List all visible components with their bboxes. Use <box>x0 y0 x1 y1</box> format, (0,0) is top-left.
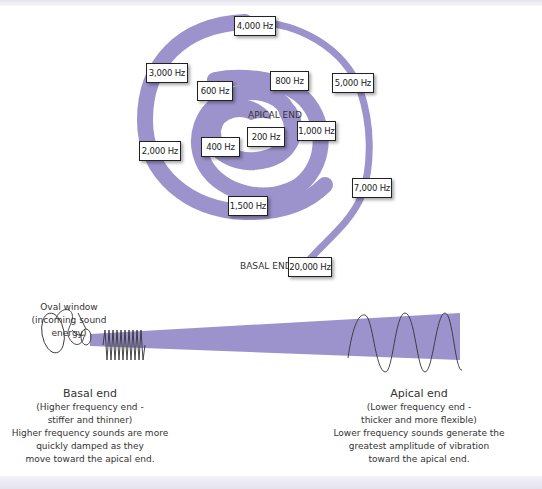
frequency-label: 800 Hz <box>270 71 309 91</box>
frequency-label: 3,000 Hz <box>146 63 188 83</box>
frequency-label: 1,000 Hz <box>297 121 336 141</box>
apical-end-title: Apical end <box>330 386 508 401</box>
frequency-label: 4,000 Hz <box>234 16 276 36</box>
basal-end-caption: Basal end (Higher frequency end - stiffe… <box>10 386 170 466</box>
apical-line: greatest amplitude of vibration <box>330 440 508 453</box>
apical-line: (Lower frequency end - <box>330 401 508 414</box>
basal-end-label: BASAL END <box>240 261 292 271</box>
bottom-border <box>0 476 542 489</box>
oval-window-caption: Oval window (incoming sound energy) <box>14 301 124 340</box>
basal-line: (Higher frequency end - <box>10 401 170 414</box>
basilar-membrane <box>90 313 460 360</box>
frequency-label: 200 Hz <box>247 127 285 147</box>
frequency-label: 5,000 Hz <box>332 73 374 93</box>
basal-line: stiffer and thinner) <box>10 414 170 427</box>
oval-window-subtitle: (incoming sound energy) <box>14 314 124 340</box>
basal-end-title: Basal end <box>10 386 170 401</box>
basal-line: move toward the apical end. <box>10 453 170 466</box>
frequency-label: 20,000 Hz <box>288 257 332 277</box>
frequency-label: 2,000 Hz <box>139 141 181 161</box>
frequency-label: 600 Hz <box>197 81 233 101</box>
basal-line: quickly damped as they <box>10 440 170 453</box>
oval-window-title: Oval window <box>14 301 124 314</box>
apical-line: toward the apical end. <box>330 453 508 466</box>
apical-line: thicker and more flexible) <box>330 414 508 427</box>
apical-end-caption: Apical end (Lower frequency end - thicke… <box>330 386 508 466</box>
apical-end-label: APICAL END <box>248 110 302 120</box>
frequency-label: 400 Hz <box>201 137 240 157</box>
frequency-label: 1,500 Hz <box>228 196 268 216</box>
apical-line: Lower frequency sounds generate the <box>330 427 508 440</box>
basal-line: Higher frequency sounds are more <box>10 427 170 440</box>
frequency-label: 7,000 Hz <box>352 178 392 198</box>
